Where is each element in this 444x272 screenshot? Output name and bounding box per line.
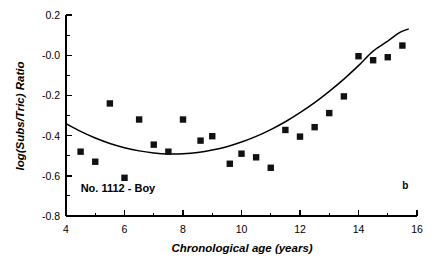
data-point xyxy=(355,53,361,59)
data-point xyxy=(253,154,259,160)
x-tick-label: 8 xyxy=(180,223,186,235)
data-point xyxy=(77,148,83,154)
data-point xyxy=(197,137,203,143)
data-point xyxy=(180,116,186,122)
x-axis-title: Chronological age (years) xyxy=(171,242,312,254)
data-point xyxy=(326,110,332,116)
subject-label: No. 1112 - Boy xyxy=(81,182,156,194)
panel-label: b xyxy=(402,180,408,191)
data-point xyxy=(209,133,215,139)
y-tick-label: -0.2 xyxy=(42,89,60,101)
fitted-curve xyxy=(66,29,408,154)
data-point xyxy=(282,127,288,133)
data-point xyxy=(165,148,171,154)
data-point xyxy=(107,100,113,106)
y-tick-label: -0.4 xyxy=(42,130,60,142)
data-point xyxy=(151,141,157,147)
y-axis-title: log(Subs/Tric) Ratio xyxy=(14,61,26,170)
data-point xyxy=(136,116,142,122)
data-point xyxy=(311,124,317,130)
data-point xyxy=(341,93,347,99)
data-point xyxy=(385,54,391,60)
chart-figure: 46810121416 0.2-0.0-0.2-0.4-0.6-0.8 Chro… xyxy=(0,0,444,272)
data-point xyxy=(121,175,127,181)
x-axis-tick-labels: 46810121416 xyxy=(63,223,423,235)
x-tick-label: 16 xyxy=(411,223,423,235)
y-tick-label: -0.8 xyxy=(42,210,60,222)
y-tick-label: 0.2 xyxy=(45,9,60,21)
x-tick-label: 14 xyxy=(353,223,365,235)
x-axis-major-ticks xyxy=(66,210,417,216)
chart-annotations: No. 1112 - Boyb xyxy=(81,180,409,194)
x-tick-label: 10 xyxy=(236,223,248,235)
data-point xyxy=(238,150,244,156)
scatter-plot: 46810121416 0.2-0.0-0.2-0.4-0.6-0.8 Chro… xyxy=(0,0,444,272)
data-point xyxy=(370,57,376,63)
data-point-group xyxy=(77,42,405,181)
x-tick-label: 12 xyxy=(294,223,306,235)
data-point xyxy=(268,165,274,171)
data-point xyxy=(227,161,233,167)
data-point xyxy=(92,159,98,165)
x-tick-label: 4 xyxy=(63,223,69,235)
data-point xyxy=(399,42,405,48)
x-tick-label: 6 xyxy=(122,223,128,235)
y-axis-tick-labels: 0.2-0.0-0.2-0.4-0.6-0.8 xyxy=(42,9,60,222)
data-point xyxy=(297,133,303,139)
y-tick-label: -0.0 xyxy=(42,49,60,61)
y-tick-label: -0.6 xyxy=(42,170,60,182)
